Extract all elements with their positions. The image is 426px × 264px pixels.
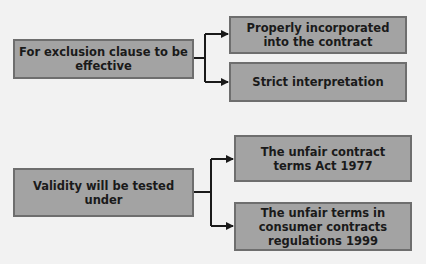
target-box-strict-interpretation: Strict interpretation	[229, 62, 407, 102]
target-box-properly-incorporated: Properly incorporated into the contract	[229, 16, 407, 54]
source-box-validity: Validity will be tested under	[13, 168, 194, 217]
target-box-ucta-1977: The unfair contract terms Act 1977	[234, 135, 412, 182]
target-box-utccr-1999: The unfair terms in consumer contracts r…	[234, 202, 412, 251]
source-box-exclusion-clause: For exclusion clause to be effective	[13, 39, 194, 79]
